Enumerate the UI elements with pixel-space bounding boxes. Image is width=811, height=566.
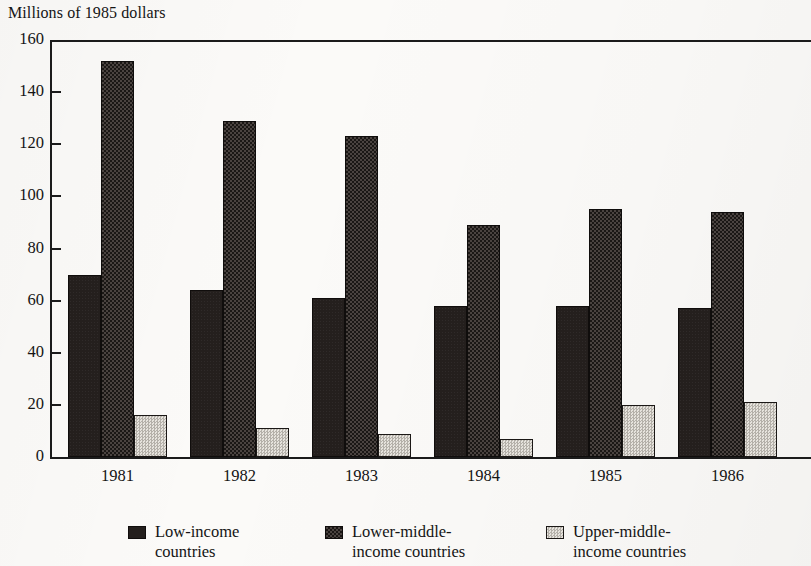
y-axis-label-160: 160 (19, 31, 44, 48)
bar-1985-low (556, 306, 589, 457)
y-axis-label-0: 0 (36, 448, 44, 465)
bar-1981-uppermid (134, 415, 167, 457)
bar-1983-uppermid (378, 434, 411, 457)
bar-1985-lowermid (589, 209, 622, 457)
legend-item-uppermid: Upper-middle- income countries (546, 522, 686, 562)
y-axis-tick-40 (52, 352, 61, 354)
x-axis-label-1981: 1981 (68, 466, 167, 486)
y-axis-line (50, 40, 52, 459)
x-axis-label-1984: 1984 (434, 466, 533, 486)
legend-item-low: Low-income countries (128, 522, 239, 562)
x-axis-label-1985: 1985 (556, 466, 655, 486)
legend-label-low: Low-income countries (155, 522, 239, 562)
y-axis-label-40: 40 (28, 344, 45, 361)
bar-1986-low (678, 308, 711, 457)
y-axis-label-120: 120 (19, 135, 44, 152)
figure-page: Millions of 1985 dollars 020406080100120… (0, 0, 811, 566)
x-axis-label-1983: 1983 (312, 466, 411, 486)
bar-1985-uppermid (622, 405, 655, 457)
plot-top-border (50, 40, 811, 42)
solid-dark-swatch (128, 526, 146, 539)
bar-1982-low (190, 290, 223, 457)
bar-1986-uppermid (744, 402, 777, 457)
chart-legend: Low-income countriesLower-middle- income… (0, 522, 811, 566)
light-checker-swatch (546, 526, 564, 539)
x-axis-label-1986: 1986 (678, 466, 777, 486)
bar-1983-lowermid (345, 136, 378, 457)
bar-1982-lowermid (223, 121, 256, 457)
y-axis-tick-100 (52, 195, 61, 197)
legend-item-lowermid: Lower-middle- income countries (325, 522, 465, 562)
y-axis-label-140: 140 (19, 83, 44, 100)
bar-1981-low (68, 275, 101, 457)
dark-checker-swatch (325, 526, 343, 539)
bar-1984-lowermid (467, 225, 500, 457)
bar-1983-low (312, 298, 345, 457)
legend-label-uppermid: Upper-middle- income countries (573, 522, 686, 562)
x-axis-label-1982: 1982 (190, 466, 289, 486)
y-axis-label-100: 100 (19, 187, 44, 204)
y-axis-label-80: 80 (28, 240, 45, 257)
bar-1982-uppermid (256, 428, 289, 457)
y-axis-tick-120 (52, 143, 61, 145)
bar-1986-lowermid (711, 212, 744, 457)
bar-1981-lowermid (101, 61, 134, 457)
chart-title: Millions of 1985 dollars (8, 4, 166, 22)
plot-area (50, 40, 811, 459)
y-axis-label-20: 20 (28, 396, 45, 413)
y-axis-tick-20 (52, 404, 61, 406)
bar-1984-low (434, 306, 467, 457)
x-axis-line (50, 457, 811, 459)
y-axis-tick-60 (52, 300, 61, 302)
y-axis-tick-80 (52, 248, 61, 250)
y-axis-label-60: 60 (28, 292, 45, 309)
y-axis-tick-140 (52, 91, 61, 93)
bar-1984-uppermid (500, 439, 533, 457)
legend-label-lowermid: Lower-middle- income countries (352, 522, 465, 562)
